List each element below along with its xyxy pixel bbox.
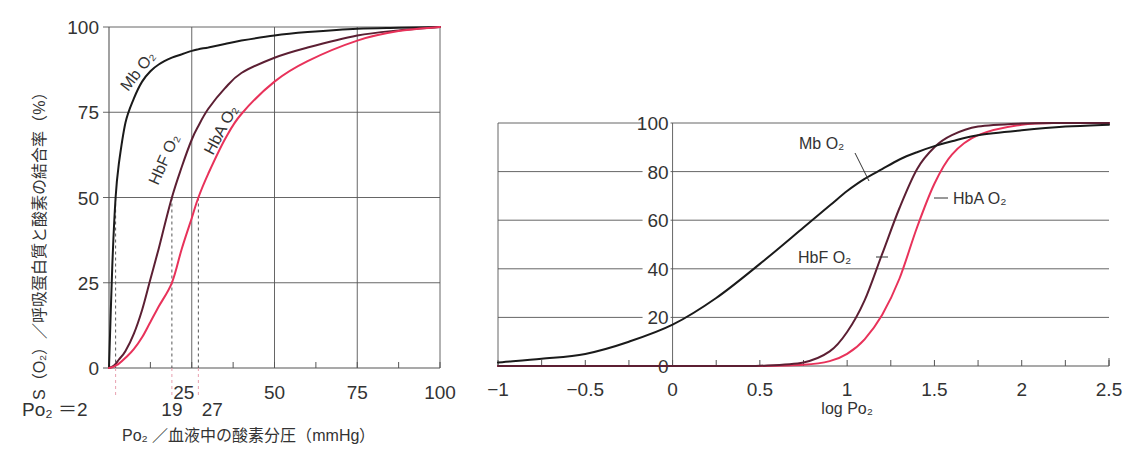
x-tick-label: −1 — [487, 379, 509, 400]
y-tick-label: 60 — [647, 210, 668, 231]
y-tick-label: 75 — [78, 102, 99, 123]
y-axis-title: S（O₂）／呼吸蛋白質と酸素の結合率（%） — [31, 84, 48, 400]
x-tick-label: −0.5 — [567, 379, 605, 400]
right-chart-log: 020406080100−1−0.500.511.522.5Mb O₂HbF O… — [487, 113, 1122, 417]
label-mb-o2: Mb O₂ — [799, 135, 844, 152]
po2-annotation-19: 19 — [161, 399, 182, 420]
x-tick-label: 50 — [264, 382, 285, 403]
x-tick-label: 1 — [842, 379, 853, 400]
x-tick-label: 75 — [347, 382, 368, 403]
x-tick-label: 0.5 — [747, 379, 773, 400]
x-axis-title: log Po₂ — [821, 400, 873, 417]
x-tick-label: 2.5 — [1096, 379, 1122, 400]
curve-hbf — [498, 123, 1109, 366]
y-tick-label: 0 — [88, 358, 99, 379]
curve-mb — [498, 125, 1109, 363]
y-tick-label: 20 — [647, 307, 668, 328]
x-tick-label: 1.5 — [921, 379, 947, 400]
y-tick-label: 100 — [67, 17, 99, 38]
po2-annotation-27: 27 — [202, 399, 223, 420]
x-tick-label: 2 — [1016, 379, 1027, 400]
chart-canvas: 0255075100255075100Po₂ ＝21927Mb O₂HbF O₂… — [0, 0, 1139, 460]
y-tick-label: 40 — [647, 259, 668, 280]
y-tick-label: 100 — [637, 113, 669, 134]
left-chart-linear: 0255075100255075100Po₂ ＝21927Mb O₂HbF O₂… — [22, 17, 456, 444]
x-tick-label: 0 — [667, 379, 678, 400]
y-tick-label: 80 — [647, 162, 668, 183]
label-hbf-o2: HbF O₂ — [798, 249, 851, 266]
x-tick-label: 100 — [424, 382, 456, 403]
y-tick-label: 50 — [78, 188, 99, 209]
po2-annotation-2: Po₂ ＝2 — [22, 399, 87, 420]
y-tick-label: 25 — [78, 273, 99, 294]
curve-hba — [498, 123, 1109, 366]
label-hba-o2: HbA O₂ — [953, 190, 1006, 207]
x-axis-title: Po₂ ／血液中の酸素分圧（mmHg） — [122, 427, 375, 444]
leader-mb-o2 — [855, 153, 869, 181]
